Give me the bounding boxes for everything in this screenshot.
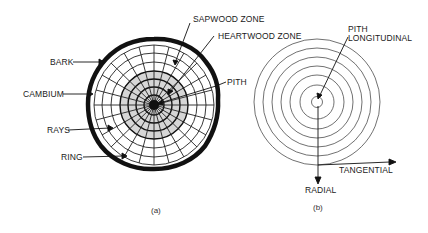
label-heartwood-zone: HEARTWOOD ZONE — [218, 32, 301, 41]
label-pith-a: PITH — [227, 78, 247, 87]
label-cambium: CAMBIUM — [23, 90, 64, 99]
label-rays: RAYS — [47, 126, 70, 135]
label-tangential: TANGENTIAL — [339, 166, 393, 175]
label-ring: RING — [61, 153, 83, 162]
caption-b: (b) — [313, 204, 323, 212]
pith-dot — [149, 100, 159, 110]
label-longitudinal: LONGITUDINAL — [348, 34, 412, 43]
caption-a: (a) — [151, 207, 161, 215]
label-radial: RADIAL — [305, 186, 336, 195]
growth-ring-axes — [254, 37, 396, 184]
log-cross-section — [63, 23, 226, 169]
label-bark: BARK — [50, 58, 74, 67]
label-sapwood-zone: SAPWOOD ZONE — [193, 15, 265, 24]
